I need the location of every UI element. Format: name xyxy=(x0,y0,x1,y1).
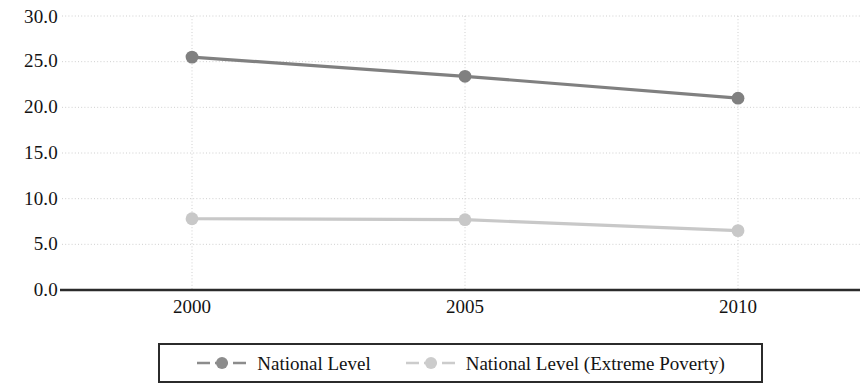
y-tick-label: 10.0 xyxy=(0,189,58,208)
y-tick-label: 25.0 xyxy=(0,51,58,70)
poverty-line-chart: 30.0 25.0 20.0 15.0 10.0 5.0 0.0 2000 20… xyxy=(0,0,867,385)
y-tick-label: 15.0 xyxy=(0,143,58,162)
gridlines xyxy=(62,16,860,290)
x-tick-label: 2005 xyxy=(405,296,525,318)
series-1 xyxy=(186,212,745,237)
plot-canvas xyxy=(0,0,867,300)
legend-marker-icon xyxy=(196,355,248,371)
y-tick-label: 20.0 xyxy=(0,97,58,116)
legend-label: National Level (Extreme Poverty) xyxy=(466,353,725,374)
plot-area xyxy=(0,0,867,300)
x-tick-label: 2010 xyxy=(678,296,798,318)
chart-legend: National Level National Level (Extreme P… xyxy=(158,343,763,383)
y-tick-label: 30.0 xyxy=(0,7,58,26)
legend-marker-icon xyxy=(405,355,457,371)
legend-label: National Level xyxy=(257,353,370,374)
x-axis: 2000 2005 2010 xyxy=(0,296,867,330)
y-axis: 30.0 25.0 20.0 15.0 10.0 5.0 0.0 xyxy=(0,0,58,300)
x-tick-label: 2000 xyxy=(132,296,252,318)
legend-entry-extreme-poverty: National Level (Extreme Poverty) xyxy=(405,353,725,374)
legend-entry-national-level: National Level xyxy=(196,353,370,374)
y-tick-label: 5.0 xyxy=(0,234,58,253)
